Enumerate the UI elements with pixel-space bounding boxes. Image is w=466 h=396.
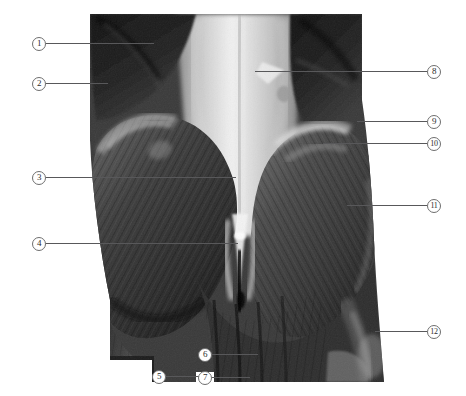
callout-leader-line-9 bbox=[357, 121, 427, 122]
callout-number-1: 1 bbox=[32, 37, 46, 51]
callout-6[interactable]: 6 bbox=[198, 347, 258, 362]
callout-leader-line-3 bbox=[46, 177, 236, 178]
callout-leader-line-2 bbox=[46, 83, 108, 84]
callout-leader-line-5 bbox=[166, 376, 202, 377]
callout-number-7: 7 bbox=[198, 371, 212, 385]
callout-3[interactable]: 3 bbox=[32, 170, 236, 185]
callout-number-10: 10 bbox=[427, 137, 441, 151]
callout-leader-line-10 bbox=[323, 143, 427, 144]
callout-1[interactable]: 1 bbox=[32, 36, 154, 51]
callout-number-4: 4 bbox=[32, 237, 46, 251]
callout-leader-line-11 bbox=[347, 205, 427, 206]
callout-11[interactable]: 11 bbox=[347, 198, 441, 213]
callout-8[interactable]: 8 bbox=[255, 64, 441, 79]
callout-9[interactable]: 9 bbox=[357, 114, 441, 129]
callout-2[interactable]: 2 bbox=[32, 76, 108, 91]
callout-number-12: 12 bbox=[427, 325, 441, 339]
callout-number-11: 11 bbox=[427, 199, 441, 213]
callout-leader-line-8 bbox=[255, 71, 427, 72]
callout-leader-line-6 bbox=[212, 354, 258, 355]
callout-leader-line-1 bbox=[46, 43, 154, 44]
callout-leader-line-12 bbox=[375, 331, 427, 332]
callout-number-5: 5 bbox=[152, 370, 166, 384]
callout-7[interactable]: 7 bbox=[198, 370, 250, 385]
callout-number-9: 9 bbox=[427, 115, 441, 129]
callout-10[interactable]: 10 bbox=[323, 136, 441, 151]
callout-5[interactable]: 5 bbox=[152, 369, 202, 384]
callout-number-8: 8 bbox=[427, 65, 441, 79]
callout-12[interactable]: 12 bbox=[375, 324, 441, 339]
anatomy-figure: 123456789101112 bbox=[0, 0, 466, 396]
callout-number-3: 3 bbox=[32, 171, 46, 185]
callout-leader-line-7 bbox=[212, 377, 250, 378]
callout-number-2: 2 bbox=[32, 77, 46, 91]
callout-leader-line-4 bbox=[46, 243, 238, 244]
callout-number-6: 6 bbox=[198, 348, 212, 362]
callout-4[interactable]: 4 bbox=[32, 236, 238, 251]
